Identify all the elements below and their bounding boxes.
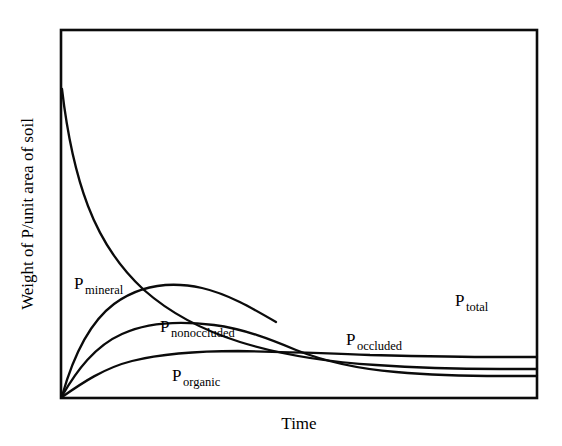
curve-label-p-organic: P organic	[172, 366, 221, 389]
y-axis-title: Weight of P/unit area of soil	[18, 118, 37, 310]
curve-p-nonoccluded-render	[62, 323, 537, 396]
curve-label-p-nonoccluded: P nonoccluded	[160, 317, 236, 340]
curve-label-p-mineral: P mineral	[74, 274, 124, 297]
phosphorus-fractions-chart: Weight of P/unit area of soil Time P min…	[0, 0, 562, 446]
chart-figure: Weight of P/unit area of soil Time P min…	[0, 0, 562, 446]
curve-label-p-total: P total	[455, 291, 489, 314]
curve-label-p-total-base: P	[455, 291, 464, 310]
curve-label-p-nonoccluded-sub: nonoccluded	[171, 326, 236, 340]
curve-label-p-mineral-base: P	[74, 274, 83, 293]
curve-label-p-nonoccluded-base: P	[160, 317, 169, 336]
curve-p-total-render	[62, 89, 537, 369]
curve-label-p-total-sub: total	[466, 300, 489, 314]
curve-label-p-occluded: P occluded	[346, 330, 403, 353]
curve-label-p-organic-base: P	[172, 366, 181, 385]
plot-frame	[61, 30, 537, 398]
curve-label-p-organic-sub: organic	[183, 375, 221, 389]
curve-label-p-occluded-sub: occluded	[357, 339, 403, 353]
curve-label-p-mineral-sub: mineral	[85, 283, 124, 297]
x-axis-title: Time	[281, 414, 316, 433]
curve-p-organic-render	[62, 351, 537, 397]
curve-p-mineral-main	[62, 285, 276, 396]
curve-label-p-occluded-base: P	[346, 330, 355, 349]
